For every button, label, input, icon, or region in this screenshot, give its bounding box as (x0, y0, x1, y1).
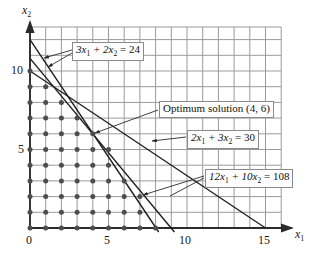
leader-optimum (95, 110, 158, 133)
y-axis-label: x2 (22, 4, 31, 19)
callout-optimum-solution: Optimum solution (4, 6) (159, 101, 274, 118)
y-tick-label-5: 5 (18, 143, 24, 155)
callout2-coef2: + 3 (205, 131, 223, 143)
x-tick-label-15: 15 (258, 234, 270, 246)
callout1-eq: = 24 (117, 43, 140, 55)
callout-constraint-2x1-3x2-30: 2x1 + 3x2 = 30 (187, 130, 259, 149)
x-tick-label-0: 0 (26, 234, 32, 246)
leader-constraint-3 (143, 176, 204, 195)
plot-canvas (0, 0, 319, 261)
callout3-coef1: 12 (209, 170, 220, 182)
x-tick-label-5: 5 (104, 234, 110, 246)
x-tick-label-10: 10 (179, 234, 191, 246)
y-tick-label-10: 10 (11, 64, 23, 76)
callout3-coef2: + 10 (229, 170, 253, 182)
callout3-eq: = 108 (261, 170, 289, 182)
grid-lines (30, 27, 281, 228)
x-axis-label: x1 (295, 228, 304, 243)
x-axis-label-subscript: 1 (300, 234, 304, 243)
leader-constraint-1-a (44, 50, 72, 58)
graphical-lp-figure: 0 5 10 15 5 10 x1 x2 3x1 + 2x2 = 24 Opti… (0, 0, 319, 261)
callout1-coef2: + 2 (90, 43, 108, 55)
leader-constraint-2 (152, 137, 186, 141)
callout2-eq: = 30 (232, 131, 255, 143)
constraint-line-12x1-10x2-108 (30, 58, 174, 232)
y-axis-label-subscript: 2 (27, 10, 31, 19)
callout-constraint-12x1-10x2-108: 12x1 + 10x2 = 108 (205, 169, 293, 188)
callout-constraint-3x1-2x2-24: 3x1 + 2x2 = 24 (72, 42, 144, 61)
